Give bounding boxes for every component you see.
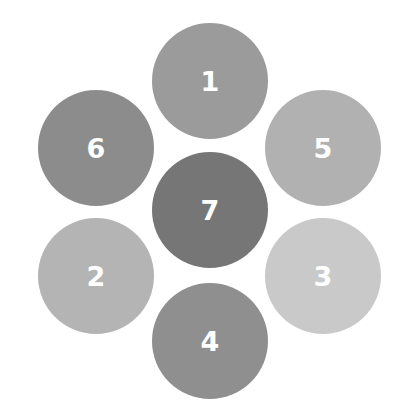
circle-label: 4 xyxy=(201,326,220,357)
circle-7: 7 xyxy=(152,152,268,268)
circle-label: 3 xyxy=(314,261,333,292)
circle-label: 6 xyxy=(87,133,106,164)
circle-5: 5 xyxy=(265,90,381,206)
circle-6: 6 xyxy=(38,90,154,206)
circle-label: 7 xyxy=(201,195,220,226)
circle-3: 3 xyxy=(265,218,381,334)
circle-1: 1 xyxy=(152,23,268,139)
circle-diagram: 1 6 5 7 2 3 4 xyxy=(0,0,399,413)
circle-4: 4 xyxy=(152,283,268,399)
circle-label: 1 xyxy=(201,66,220,97)
circle-2: 2 xyxy=(38,218,154,334)
circle-label: 5 xyxy=(314,133,333,164)
circle-label: 2 xyxy=(87,261,106,292)
